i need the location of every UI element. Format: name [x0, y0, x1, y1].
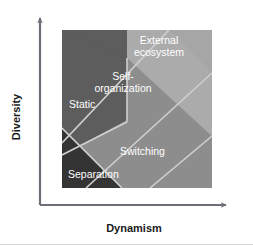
matrix-diagram: Diversity Dynamism External ecosystem Se… — [0, 0, 253, 245]
label-external-ecosystem-line1: External — [140, 34, 179, 46]
x-axis-label: Dynamism — [106, 222, 162, 234]
label-static: Separation — [68, 168, 119, 180]
y-axis-label: Diversity — [10, 93, 22, 140]
label-self-organization-line2: organization — [94, 82, 151, 94]
label-switching: Switching — [120, 145, 165, 157]
label-separation: Static — [69, 98, 95, 110]
label-self-organization-line1: Self- — [112, 70, 134, 82]
label-external-ecosystem-line2: ecosystem — [134, 46, 184, 58]
figure-container: Diversity Dynamism External ecosystem Se… — [0, 0, 253, 245]
